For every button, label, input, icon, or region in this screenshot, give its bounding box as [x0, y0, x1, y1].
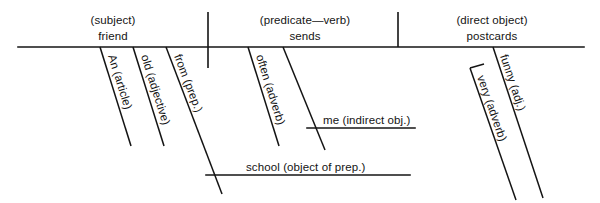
- subject-word-label: friend: [98, 30, 127, 42]
- adverb-often-label: often (adverb): [254, 53, 287, 126]
- sentence-diagram: (subject) friend (predicate—verb) sends …: [0, 0, 600, 203]
- adjective-funny-label: funny (adj.): [498, 53, 528, 113]
- indirect-object-label: me (indirect obj.): [323, 114, 411, 126]
- direct-object-word-label: postcards: [467, 30, 518, 42]
- adverb-very-connector-line: [470, 64, 484, 68]
- object-of-prep-label: school (object of prep.): [246, 161, 365, 173]
- predicate-word-label: sends: [289, 30, 320, 42]
- diagram-canvas: (subject) friend (predicate—verb) sends …: [0, 0, 600, 203]
- subject-role-label: (subject): [91, 14, 136, 26]
- preposition-slant-line: [166, 47, 222, 194]
- adjective-label: old (adjective): [139, 53, 172, 126]
- direct-object-role-label: (direct object): [456, 14, 527, 26]
- predicate-role-label: (predicate—verb): [260, 14, 351, 26]
- indirect-object-slant-line: [283, 47, 325, 150]
